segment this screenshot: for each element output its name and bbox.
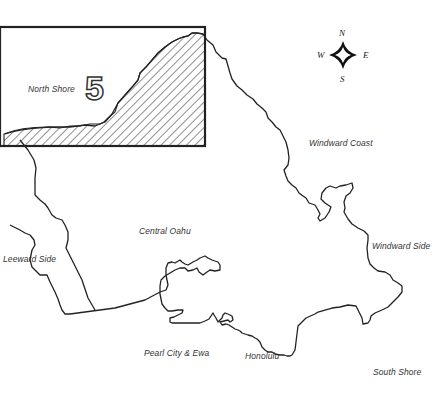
region-label-leeward-side[interactable]: Leeward Side <box>3 254 56 264</box>
oahu-map <box>0 0 447 395</box>
compass-east-label: E <box>363 50 369 60</box>
island-coastline-west <box>20 140 95 310</box>
compass-rose-icon <box>329 41 357 69</box>
region-label-pearl-city-ewa[interactable]: Pearl City & Ewa <box>144 348 209 358</box>
compass-west-label: W <box>317 50 325 60</box>
region-label-north-shore[interactable]: North Shore <box>28 84 75 94</box>
compass-north-label: N <box>339 28 345 38</box>
zone-number-label: 5 <box>85 71 104 105</box>
region-label-windward-side[interactable]: Windward Side <box>372 241 430 251</box>
region-label-honolulu[interactable]: Honolulu <box>245 351 279 361</box>
compass-south-label: S <box>340 74 345 84</box>
region-label-windward-coast[interactable]: Windward Coast <box>309 138 373 148</box>
region-label-central-oahu[interactable]: Central Oahu <box>139 226 191 236</box>
region-label-south-shore[interactable]: South Shore <box>373 367 421 377</box>
